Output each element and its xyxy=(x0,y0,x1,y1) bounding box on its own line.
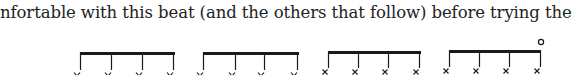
note-head-v xyxy=(291,73,297,76)
note-head-x xyxy=(414,70,419,75)
beam xyxy=(449,50,541,53)
note-head-v xyxy=(258,73,264,76)
note-head-x xyxy=(383,70,388,75)
beam xyxy=(328,51,421,54)
beamed-group-1 xyxy=(74,52,175,75)
note-head-v xyxy=(105,73,111,76)
drum-notation xyxy=(0,0,573,75)
note-head-x xyxy=(474,69,479,74)
note-head-x xyxy=(353,70,358,75)
note-head-v xyxy=(197,73,203,76)
beam xyxy=(203,52,299,55)
beam xyxy=(80,52,175,55)
note-head-v xyxy=(136,73,142,76)
note-head-v xyxy=(74,73,80,76)
beamed-group-2 xyxy=(197,52,299,75)
beamed-group-3 xyxy=(323,51,422,75)
open-hihat-mark xyxy=(538,39,543,44)
note-head-v xyxy=(167,73,173,76)
note-head-x xyxy=(444,69,449,74)
note-head-x xyxy=(535,69,540,74)
beamed-group-4 xyxy=(444,39,544,73)
note-head-x xyxy=(323,70,328,75)
note-head-v xyxy=(229,73,235,76)
note-head-x xyxy=(504,69,509,74)
